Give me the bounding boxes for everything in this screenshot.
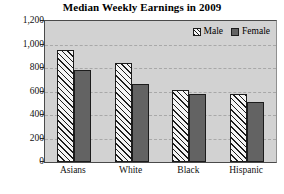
y-tick-label: 200: [8, 133, 44, 143]
legend-label-male: Male: [204, 27, 224, 37]
x-tick-label: Hispanic: [229, 165, 263, 175]
plot-area: Male Female: [44, 20, 277, 163]
x-tick-label: Black: [177, 165, 199, 175]
legend-entry-male: Male: [193, 27, 224, 37]
y-tick-mark: [40, 67, 44, 68]
bar-group: [172, 21, 206, 162]
bar-asians-female: [74, 70, 91, 162]
legend-swatch-female-icon: [231, 28, 239, 36]
x-tick-label: White: [119, 165, 142, 175]
y-tick-mark: [40, 138, 44, 139]
y-tick-mark: [40, 20, 44, 21]
y-tick-mark: [40, 161, 44, 162]
bar-white-male: [115, 63, 132, 162]
y-tick-label: 800: [8, 62, 44, 72]
y-tick-label: 1,000: [8, 39, 44, 49]
y-axis: 02004006008001,0001,200: [0, 0, 44, 194]
x-axis: AsiansWhiteBlackHispanic: [44, 165, 277, 181]
bar-group: [230, 21, 264, 162]
y-tick-label: 0: [8, 156, 44, 166]
bar-white-female: [132, 84, 149, 162]
bar-hispanic-female: [247, 102, 264, 162]
chart-legend: Male Female: [193, 27, 271, 37]
legend-entry-female: Female: [231, 27, 270, 37]
y-tick-mark: [40, 114, 44, 115]
bar-chart: Median Weekly Earnings in 2009 Male Fema…: [0, 0, 284, 194]
y-tick-label: 600: [8, 86, 44, 96]
bars-layer: [45, 21, 276, 162]
x-tick-label: Asians: [60, 165, 86, 175]
y-tick-mark: [40, 91, 44, 92]
y-tick-mark: [40, 44, 44, 45]
bar-hispanic-male: [230, 94, 247, 162]
bar-black-male: [172, 90, 189, 162]
legend-swatch-male-icon: [193, 28, 201, 36]
bar-group: [115, 21, 149, 162]
bar-black-female: [189, 94, 206, 162]
legend-label-female: Female: [242, 27, 270, 37]
y-tick-label: 1,200: [8, 15, 44, 25]
bar-group: [57, 21, 91, 162]
y-tick-label: 400: [8, 109, 44, 119]
bar-asians-male: [57, 50, 74, 162]
